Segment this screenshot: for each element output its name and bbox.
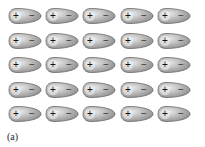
negative-charge-icon: −	[141, 108, 147, 119]
positive-charge-icon: +	[125, 35, 131, 46]
negative-charge-icon: −	[29, 59, 35, 70]
dipole-molecule: +−	[8, 81, 42, 99]
positive-charge-icon: +	[162, 108, 168, 119]
dipole-molecule: +−	[120, 7, 154, 25]
negative-charge-icon: −	[29, 84, 35, 95]
positive-charge-icon: +	[13, 84, 19, 95]
negative-charge-icon: −	[66, 59, 72, 70]
negative-charge-icon: −	[66, 10, 72, 21]
dipole-molecule: +−	[82, 7, 116, 25]
positive-charge-icon: +	[13, 108, 19, 119]
negative-charge-icon: −	[29, 108, 35, 119]
positive-charge-icon: +	[87, 108, 93, 119]
negative-charge-icon: −	[141, 59, 147, 70]
negative-charge-icon: −	[103, 59, 109, 70]
positive-charge-icon: +	[125, 59, 131, 70]
dipole-molecule: +−	[82, 105, 116, 123]
dipole-molecule: +−	[8, 7, 42, 25]
dipole-molecule: +−	[45, 105, 79, 123]
dipole-molecule: +−	[120, 56, 154, 74]
figure-label: (a)	[7, 131, 18, 142]
positive-charge-icon: +	[125, 10, 131, 21]
negative-charge-icon: −	[103, 108, 109, 119]
negative-charge-icon: −	[29, 35, 35, 46]
dipole-molecule: +−	[157, 7, 191, 25]
negative-charge-icon: −	[29, 10, 35, 21]
dipole-molecule: +−	[82, 56, 116, 74]
positive-charge-icon: +	[162, 84, 168, 95]
positive-charge-icon: +	[125, 108, 131, 119]
dipole-molecule: +−	[120, 32, 154, 50]
negative-charge-icon: −	[66, 84, 72, 95]
dipole-molecule: +−	[120, 81, 154, 99]
dipole-molecule: +−	[82, 81, 116, 99]
dipole-molecule: +−	[8, 105, 42, 123]
dipole-grid: +−+−+−+−+−+−+−+−+−+−+−+−+−+−+−+−+−+−+−+−…	[0, 0, 205, 130]
dipole-molecule: +−	[8, 56, 42, 74]
negative-charge-icon: −	[141, 35, 147, 46]
positive-charge-icon: +	[13, 59, 19, 70]
negative-charge-icon: −	[66, 35, 72, 46]
negative-charge-icon: −	[178, 35, 184, 46]
positive-charge-icon: +	[50, 84, 56, 95]
dipole-molecule: +−	[157, 81, 191, 99]
negative-charge-icon: −	[178, 10, 184, 21]
dipole-molecule: +−	[82, 32, 116, 50]
positive-charge-icon: +	[50, 35, 56, 46]
negative-charge-icon: −	[178, 108, 184, 119]
dipole-molecule: +−	[45, 81, 79, 99]
dipole-molecule: +−	[157, 32, 191, 50]
dipole-molecule: +−	[157, 105, 191, 123]
positive-charge-icon: +	[87, 59, 93, 70]
negative-charge-icon: −	[141, 10, 147, 21]
negative-charge-icon: −	[178, 84, 184, 95]
dipole-molecule: +−	[45, 32, 79, 50]
negative-charge-icon: −	[103, 84, 109, 95]
dipole-molecule: +−	[120, 105, 154, 123]
negative-charge-icon: −	[141, 84, 147, 95]
positive-charge-icon: +	[13, 10, 19, 21]
positive-charge-icon: +	[162, 35, 168, 46]
positive-charge-icon: +	[162, 10, 168, 21]
positive-charge-icon: +	[87, 35, 93, 46]
dipole-molecule: +−	[45, 56, 79, 74]
positive-charge-icon: +	[87, 84, 93, 95]
negative-charge-icon: −	[103, 35, 109, 46]
negative-charge-icon: −	[103, 10, 109, 21]
positive-charge-icon: +	[87, 10, 93, 21]
dipole-molecule: +−	[45, 7, 79, 25]
positive-charge-icon: +	[13, 35, 19, 46]
dipole-molecule: +−	[8, 32, 42, 50]
positive-charge-icon: +	[50, 59, 56, 70]
positive-charge-icon: +	[162, 59, 168, 70]
negative-charge-icon: −	[66, 108, 72, 119]
dipole-molecule: +−	[157, 56, 191, 74]
positive-charge-icon: +	[125, 84, 131, 95]
positive-charge-icon: +	[50, 108, 56, 119]
negative-charge-icon: −	[178, 59, 184, 70]
positive-charge-icon: +	[50, 10, 56, 21]
